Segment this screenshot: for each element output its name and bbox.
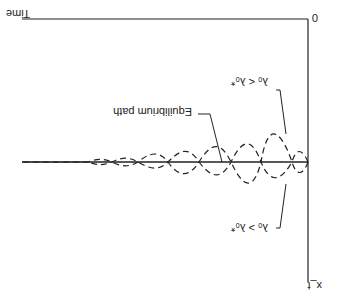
origin-label: 0 <box>312 12 318 24</box>
oscillation-lower <box>22 144 308 178</box>
chart-svg: Time 0 x_t Equilibrium path λ₀ < λ₀* λ₀ … <box>0 0 338 304</box>
time-label: Time <box>6 8 30 20</box>
leader-equilibrium <box>198 114 222 162</box>
phase-figure: Time 0 x_t Equilibrium path λ₀ < λ₀* λ₀ … <box>0 0 338 304</box>
upper-case-label: λ₀ < λ₀* <box>230 76 268 88</box>
leader-upper <box>276 90 286 134</box>
lower-case-label: λ₀ > λ₀* <box>230 222 268 234</box>
equilibrium-label: Equilibrium path <box>113 106 192 118</box>
leader-lower <box>276 184 286 228</box>
oscillation-upper <box>22 134 308 183</box>
xt-label: x_t <box>307 280 322 292</box>
